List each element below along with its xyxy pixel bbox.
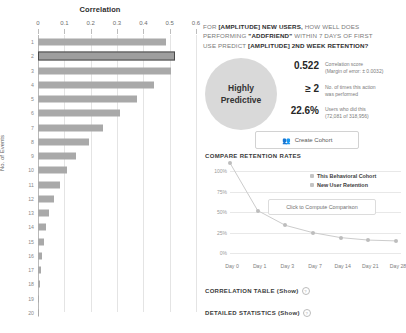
retention-x-tick-label: Day 14 (334, 263, 350, 269)
correlation-bar[interactable] (38, 267, 41, 274)
question-heading: FOR [AMPLITUDE] NEW USERS, HOW WELL DOES… (203, 22, 401, 50)
correlation-bar[interactable] (38, 281, 40, 288)
correlation-x-tickmark (64, 29, 65, 34)
correlation-bar-row[interactable]: 13 (0, 206, 200, 220)
summary-block: HighlyPredictive 0.522Correlation score(… (203, 58, 401, 130)
tooltip-label: Click to Compute Comparison (286, 204, 358, 210)
create-cohort-label: Create Cohort (295, 137, 333, 143)
correlation-bar-row[interactable]: 2 (0, 49, 200, 63)
correlation-y-tick-label: 4 (22, 82, 34, 88)
retention-data-point[interactable] (366, 238, 370, 242)
detailed-statistics-toggle[interactable]: DETAILED STATISTICS (Show) ? (205, 309, 311, 317)
correlation-bar[interactable] (38, 138, 89, 145)
insight-panel: FOR [AMPLITUDE] NEW USERS, HOW WELL DOES… (200, 0, 405, 333)
correlation-y-tick-label: 18 (22, 281, 34, 287)
correlation-bar[interactable] (38, 96, 137, 103)
correlation-bar-row[interactable]: 12 (0, 192, 200, 206)
correlation-plot-area: 1234567891011121314151617181920 (0, 35, 200, 320)
correlation-bar[interactable] (38, 167, 67, 174)
correlation-bar[interactable] (38, 195, 54, 202)
correlation-bar-row[interactable]: 16 (0, 249, 200, 263)
correlation-y-tick-label: 11 (22, 182, 34, 188)
correlation-bar[interactable] (38, 67, 171, 74)
legend-swatch (310, 174, 314, 178)
question-l2b: "ADDFRIEND" (248, 32, 292, 39)
correlation-bar-row[interactable]: 7 (0, 121, 200, 135)
correlation-bar[interactable] (38, 252, 42, 259)
correlation-bar[interactable] (38, 153, 76, 160)
correlation-x-tick: 0.6 (192, 20, 200, 26)
correlation-bar-row[interactable]: 18 (0, 277, 200, 291)
question-l3a: USE PREDICT (203, 42, 248, 49)
question-l3b: [AMPLITUDE] 2ND WEEK RETENTION? (248, 42, 369, 49)
correlation-y-tick-label: 3 (22, 68, 34, 74)
legend-item[interactable]: This Behavioral Cohort (310, 173, 376, 179)
retention-data-point[interactable] (339, 236, 343, 240)
question-l2a: PERFORMING (203, 32, 248, 39)
correlation-y-tick-label: 2 (22, 53, 34, 59)
correlation-bar[interactable] (38, 181, 60, 188)
correlation-bar-row[interactable]: 20 (0, 306, 200, 320)
correlation-bar-row[interactable]: 9 (0, 149, 200, 163)
correlation-bar-row[interactable]: 5 (0, 92, 200, 106)
question-l1c: HOW WELL DOES (303, 23, 360, 30)
retention-data-point[interactable] (228, 161, 232, 165)
correlation-bar-row[interactable]: 17 (0, 263, 200, 277)
legend-item[interactable]: New User Retention (310, 182, 376, 188)
correlation-bar-row[interactable]: 11 (0, 178, 200, 192)
retention-data-point[interactable] (283, 223, 287, 227)
correlation-bar[interactable] (38, 110, 120, 117)
correlation-bar-row[interactable]: 4 (0, 78, 200, 92)
correlation-bar-row[interactable]: 1 (0, 35, 200, 49)
correlation-x-tickmark (196, 29, 197, 34)
correlation-x-tick: 0.1 (60, 20, 68, 26)
correlation-bar-row[interactable]: 15 (0, 235, 200, 249)
stat-description: Correlation score(Margin of error: ± 0.0… (325, 60, 383, 76)
help-icon[interactable]: ? (303, 309, 311, 317)
correlation-bar[interactable] (38, 309, 39, 316)
correlation-bar-row[interactable]: 10 (0, 163, 200, 177)
correlation-bar[interactable] (38, 295, 39, 302)
detailed-statistics-label: DETAILED STATISTICS (Show) (205, 310, 300, 316)
correlation-y-tick-label: 9 (22, 153, 34, 159)
retention-x-tick-label: Day 28 (390, 263, 406, 269)
create-cohort-button[interactable]: 👥 Create Cohort (255, 131, 359, 149)
stat-value: 0.522 (285, 60, 319, 71)
correlation-chart-panel: Correlation 00.10.20.30.40.50.6 12345678… (0, 0, 200, 333)
correlation-y-tick-label: 19 (22, 296, 34, 302)
correlation-bar-row[interactable]: 8 (0, 135, 200, 149)
correlation-x-tickmark (170, 29, 171, 34)
correlation-x-tickmark (117, 29, 118, 34)
correlation-y-tick-label: 7 (22, 125, 34, 131)
stat-item: ≥ 2No. of times this actionwas performed (285, 83, 403, 99)
people-icon: 👥 (282, 137, 291, 144)
retention-x-tick-label: Day 21 (362, 263, 378, 269)
retention-x-tick-label: Day 7 (308, 263, 322, 269)
correlation-bar[interactable] (38, 210, 49, 217)
correlation-bar[interactable] (38, 81, 154, 88)
retention-legend: This Behavioral CohortNew User Retention (310, 173, 376, 190)
correlation-bar[interactable] (38, 238, 44, 245)
correlation-bar[interactable] (38, 52, 175, 61)
correlation-x-tick: 0.3 (113, 20, 121, 26)
stats-list: 0.522Correlation score(Margin of error: … (285, 60, 403, 128)
correlation-x-tick: 0.2 (86, 20, 94, 26)
help-icon[interactable]: ? (302, 287, 310, 295)
correlation-bar-row[interactable]: 19 (0, 292, 200, 306)
correlation-table-toggle[interactable]: CORRELATION TABLE (Show) ? (205, 287, 310, 295)
retention-data-point[interactable] (311, 231, 315, 235)
retention-x-tick-label: Day 3 (281, 263, 295, 269)
compute-comparison-tooltip[interactable]: Click to Compute Comparison (268, 199, 376, 215)
correlation-table-label: CORRELATION TABLE (Show) (205, 288, 299, 294)
correlation-bar[interactable] (38, 39, 166, 46)
correlation-bar-row[interactable]: 6 (0, 106, 200, 120)
correlation-bar-row[interactable]: 14 (0, 220, 200, 234)
correlation-bar[interactable] (38, 224, 46, 231)
retention-data-point[interactable] (394, 239, 398, 243)
retention-data-point[interactable] (256, 209, 260, 213)
correlation-x-tickmark (143, 29, 144, 34)
legend-label: This Behavioral Cohort (317, 173, 376, 179)
correlation-bar-row[interactable]: 3 (0, 64, 200, 78)
correlation-bar[interactable] (38, 124, 103, 131)
